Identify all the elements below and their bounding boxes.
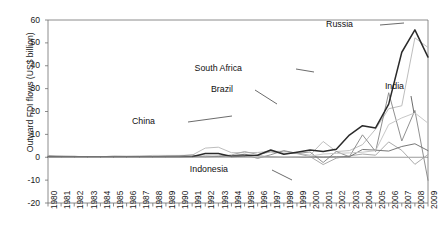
series-label-south-africa: South Africa [195, 64, 242, 73]
chart-figure: Outward FDI flows (US$ billion) 60504030… [0, 0, 441, 249]
annotation-leader-line [188, 116, 232, 122]
annotation-leader-line [380, 23, 404, 25]
series-line-russia [48, 30, 428, 157]
axis-frame [48, 20, 428, 203]
series-label-india: India [385, 82, 404, 91]
annotation-leader-line [296, 69, 314, 72]
series-label-brazil: Brazil [211, 85, 233, 94]
series-line-china [48, 38, 428, 157]
chart-plot-area [0, 0, 441, 249]
annotation-leader-line [255, 90, 277, 104]
annotation-leader-line [411, 96, 414, 113]
series-label-china: China [132, 117, 155, 126]
annotation-leader-line [272, 170, 292, 180]
series-label-russia: Russia [326, 20, 353, 29]
series-label-indonesia: Indonesia [190, 165, 228, 174]
series-line-brazil [48, 93, 428, 181]
